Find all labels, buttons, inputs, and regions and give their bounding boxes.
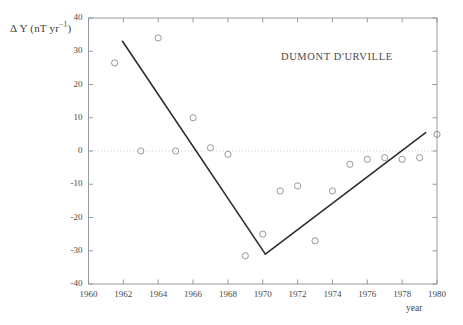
y-tick-label: 20 — [57, 79, 83, 89]
data-point — [242, 253, 248, 259]
data-point — [260, 231, 266, 237]
data-point — [225, 151, 231, 157]
x-tick-label: 1968 — [211, 289, 245, 299]
data-point — [112, 60, 118, 66]
y-tick-label: 10 — [57, 112, 83, 122]
x-tick-label: 1974 — [315, 289, 349, 299]
data-point — [416, 155, 422, 161]
data-point — [277, 188, 283, 194]
x-tick-label: 1962 — [106, 289, 140, 299]
data-point — [382, 155, 388, 161]
data-point — [399, 156, 405, 162]
x-tick-label: 1960 — [72, 289, 106, 299]
y-tick-label: 30 — [57, 45, 83, 55]
y-tick-label: -20 — [57, 212, 83, 222]
figure-container: Δ Y (nT yr−1) DUMONT D'URVILLE year -40-… — [0, 0, 463, 325]
ascending-trend — [265, 133, 425, 254]
data-point — [347, 161, 353, 167]
x-tick-label: 1966 — [176, 289, 210, 299]
x-tick-label: 1964 — [141, 289, 175, 299]
y-tick-label: -30 — [57, 245, 83, 255]
x-tick-label: 1978 — [385, 289, 419, 299]
data-point — [312, 238, 318, 244]
plot-axes — [89, 18, 438, 284]
data-point — [207, 145, 213, 151]
y-tick-label: -40 — [57, 278, 83, 288]
descending-trend — [122, 41, 265, 254]
x-tick-label: 1972 — [281, 289, 315, 299]
x-tick-label: 1970 — [246, 289, 280, 299]
data-point — [190, 115, 196, 121]
data-points — [112, 35, 441, 259]
data-point — [364, 156, 370, 162]
data-point — [295, 183, 301, 189]
y-tick-label: 0 — [57, 145, 83, 155]
trend-lines — [122, 41, 425, 254]
data-point — [155, 35, 161, 41]
x-tick-label: 1976 — [350, 289, 384, 299]
x-tick-label: 1980 — [420, 289, 454, 299]
data-point — [329, 188, 335, 194]
y-tick-label: 40 — [57, 12, 83, 22]
y-tick-label: -10 — [57, 178, 83, 188]
axis-ticks — [89, 18, 438, 284]
